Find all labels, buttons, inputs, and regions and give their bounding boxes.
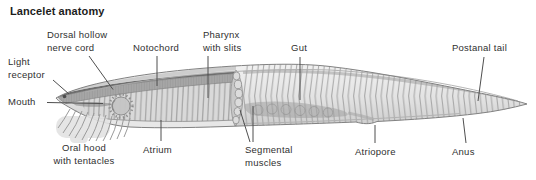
label-mouth: Mouth: [8, 96, 36, 109]
label-postanal-tail: Postanal tail: [452, 42, 507, 55]
label-text: with slits: [203, 42, 241, 55]
label-atriopore: Atriopore: [355, 146, 396, 159]
label-text: Atrium: [143, 144, 172, 157]
label-notochord: Notochord: [133, 42, 179, 55]
label-text: with tentacles: [40, 155, 128, 168]
light-receptor-dot: [63, 95, 67, 99]
label-text: Dorsal hollow: [47, 29, 107, 42]
leader-light-receptor-line: [53, 80, 69, 94]
label-text: receptor: [8, 69, 45, 82]
label-text: Segmental: [245, 144, 293, 157]
label-text: Oral hood: [40, 142, 128, 155]
label-text: Light: [8, 56, 45, 69]
label-gut: Gut: [291, 42, 307, 55]
label-text: Pharynx: [203, 29, 241, 42]
label-light-receptor: Light receptor: [8, 56, 45, 81]
label-pharynx: Pharynx with slits: [203, 29, 241, 54]
label-text: Postanal tail: [452, 42, 507, 55]
label-text: Atriopore: [355, 146, 396, 159]
label-text: muscles: [245, 157, 293, 170]
segmental-muscle-pattern: [243, 55, 536, 140]
label-text: Anus: [452, 146, 475, 159]
label-oral-hood: Oral hood with tentacles: [40, 142, 128, 167]
leader-anus-line: [463, 118, 466, 143]
label-segmental-muscles: Segmental muscles: [245, 144, 293, 169]
label-text: Gut: [291, 42, 307, 55]
label-text: Notochord: [133, 42, 179, 55]
lancelet-anatomy-figure: Lancelet anatomy: [0, 0, 536, 180]
label-atrium: Atrium: [143, 144, 172, 157]
label-anus: Anus: [452, 146, 475, 159]
label-text: nerve cord: [47, 42, 107, 55]
label-dorsal-nerve-cord: Dorsal hollow nerve cord: [47, 29, 107, 54]
label-text: Mouth: [8, 96, 36, 109]
